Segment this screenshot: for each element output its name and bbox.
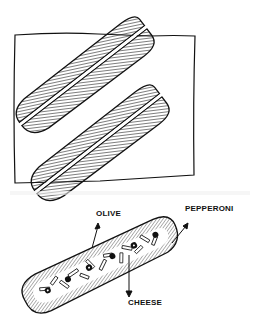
scan-fade — [10, 191, 250, 195]
label-cheese: CHEESE — [128, 298, 162, 307]
olive-arrowhead — [95, 223, 100, 229]
illustration-canvas — [0, 0, 256, 325]
label-pepperoni: PEPPERONI — [185, 204, 233, 213]
cheese-arrowhead — [126, 291, 132, 297]
label-olive: OLIVE — [96, 209, 121, 218]
